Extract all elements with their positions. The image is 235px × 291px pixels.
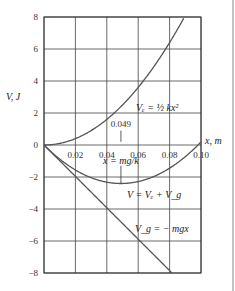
x-tick-label: 0.10 [193, 150, 209, 160]
y-tick-label: 0 [34, 140, 39, 150]
v-total-label: V = Vₑ + V_g [127, 189, 181, 200]
x-tick-label: 0.08 [162, 150, 178, 160]
y-tick-label: 4 [34, 76, 39, 86]
y-tick-label: −2 [28, 172, 38, 182]
x-tick-label: 0.02 [68, 150, 84, 160]
annotation-formula: x = mg/k [102, 155, 139, 166]
energy-chart: 86420−2−4−6−80.020.040.060.080.10V, Jx, … [0, 0, 235, 291]
y-tick-label: −8 [28, 268, 38, 278]
y-tick-label: 6 [34, 44, 39, 54]
y-axis-label: V, J [6, 91, 21, 102]
annotation-value: 0.049 [111, 119, 132, 129]
y-tick-label: 8 [34, 12, 39, 22]
y-tick-label: 2 [34, 108, 39, 118]
ve-label: Vₑ = ½ kx² [136, 102, 179, 113]
x-axis-label: x, m [204, 135, 222, 146]
y-tick-label: −4 [28, 204, 38, 214]
y-tick-label: −6 [28, 236, 38, 246]
vg-label: V_g = − mgx [135, 223, 189, 234]
